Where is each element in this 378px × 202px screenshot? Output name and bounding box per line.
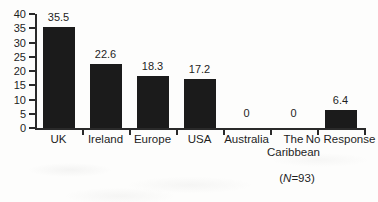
y-axis-tick <box>29 127 35 129</box>
y-axis-tick <box>29 70 35 72</box>
y-axis-tick-label: 10 <box>4 94 26 107</box>
bar-value-label: 17.2 <box>178 63 222 75</box>
y-axis-tick <box>29 27 35 29</box>
annotation-suffix: =93) <box>291 172 314 184</box>
y-axis-tick-label: 30 <box>4 37 26 50</box>
y-axis-tick-label: 5 <box>4 108 26 121</box>
sample-size-annotation: (N=93) <box>255 172 339 185</box>
bar-value-label: 0 <box>272 107 316 119</box>
bar-no-response <box>325 110 357 128</box>
y-axis-tick-label: 35 <box>4 22 26 35</box>
bar-uk <box>43 27 75 128</box>
y-axis-tick <box>29 113 35 115</box>
y-axis-tick-label: 40 <box>4 8 26 21</box>
bar-value-label: 0 <box>225 107 269 119</box>
bar-ireland <box>90 64 122 128</box>
y-axis-tick-label: 20 <box>4 65 26 78</box>
bar-value-label: 6.4 <box>319 94 363 106</box>
bar-value-label: 22.6 <box>84 48 128 60</box>
y-axis-tick-label: 15 <box>4 79 26 92</box>
y-axis-line <box>35 14 37 130</box>
bar-value-label: 18.3 <box>131 60 175 72</box>
y-axis-tick <box>29 42 35 44</box>
y-axis-tick <box>29 99 35 101</box>
y-axis-tick-label: 25 <box>4 51 26 64</box>
x-axis-label: No Response <box>295 133 378 146</box>
bar-chart-figure: 051015202530354035.5UK22.6Ireland18.3Eur… <box>0 0 378 202</box>
y-axis-tick <box>29 13 35 15</box>
y-axis-tick <box>29 84 35 86</box>
bar-usa <box>184 79 216 128</box>
y-axis-tick <box>29 56 35 58</box>
bar-value-label: 35.5 <box>37 11 81 23</box>
bar-europe <box>137 76 169 128</box>
